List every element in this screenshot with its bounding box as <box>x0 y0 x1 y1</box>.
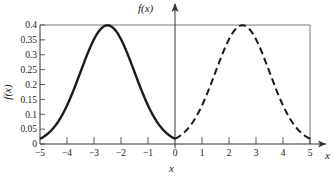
y-tick-label: 0.05 <box>20 124 37 134</box>
y-tick-label: 0.4 <box>25 20 37 30</box>
y-axis-ticks: 00.050.10.150.20.250.30.350.4 <box>20 20 45 149</box>
y-tick-label: 0.2 <box>25 80 37 90</box>
x-axis-arrow-label: x <box>324 149 330 161</box>
y-tick-label: 0.15 <box>20 95 37 105</box>
dashed-curve <box>175 25 310 138</box>
x-tick-label: −4 <box>62 148 72 158</box>
y-tick-label: 0.35 <box>20 35 37 45</box>
x-tick-label: 2 <box>227 148 232 158</box>
x-axis-title: x <box>168 162 174 174</box>
solid-curve <box>40 25 175 138</box>
x-tick-label: 3 <box>254 148 259 158</box>
x-tick-label: 0 <box>173 148 178 158</box>
x-tick-label: 4 <box>281 148 286 158</box>
chart: 00.050.10.150.20.250.30.350.4 −5−4−3−2−1… <box>0 0 335 178</box>
y-tick-label: 0.3 <box>25 50 37 60</box>
x-tick-label: 5 <box>308 148 313 158</box>
x-tick-label: −2 <box>116 148 126 158</box>
x-tick-label: 1 <box>200 148 205 158</box>
x-tick-label: −3 <box>89 148 99 158</box>
y-axis-title: f(x) <box>1 84 14 100</box>
y-tick-label: 0.25 <box>20 65 37 75</box>
x-tick-label: −1 <box>143 148 153 158</box>
plot-frame <box>40 3 326 148</box>
f-of-x-top-label: f(x) <box>138 2 154 15</box>
y-tick-label: 0.1 <box>25 110 37 120</box>
x-tick-label: −5 <box>35 148 45 158</box>
x-axis-ticks: −5−4−3−2−1012345 <box>35 137 313 158</box>
